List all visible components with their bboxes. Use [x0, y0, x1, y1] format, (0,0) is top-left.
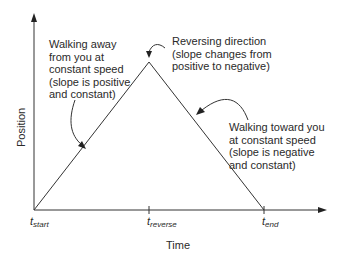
reverse-arrow-line	[149, 45, 165, 52]
annotation-walking-toward: Walking toward you at constant speed (sl…	[229, 121, 325, 171]
tick-label-start: tstart	[30, 215, 49, 229]
away-arrow-line	[71, 100, 82, 145]
x-axis-label: Time	[166, 239, 190, 251]
tick-label-end: tend	[262, 215, 278, 229]
annotation-reversing: Reversing direction (slope changes from …	[172, 35, 272, 73]
y-axis-arrow-icon	[31, 13, 37, 22]
reverse-arrowhead-icon	[146, 51, 152, 58]
y-axis-label: Position	[15, 108, 27, 147]
toward-arrow-line	[202, 99, 248, 120]
tick-label-reverse: treverse	[147, 215, 177, 229]
annotation-walking-away: Walking away from you at constant speed …	[49, 38, 130, 101]
x-axis-arrow-icon	[318, 207, 327, 213]
